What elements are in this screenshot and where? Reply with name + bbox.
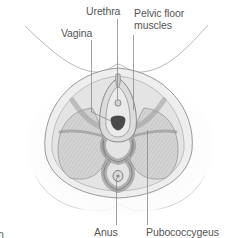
label-pelvic-floor-line1: Pelvic floor <box>134 8 184 20</box>
label-pubococcygeus: Pubococcygeus <box>146 227 219 238</box>
label-pelvic-floor-muscles: Pelvic floor muscles <box>134 8 184 31</box>
anatomy-illustration <box>0 0 237 238</box>
pelvic-floor-diagram: Urethra Vagina Pelvic floor muscles Anus… <box>0 0 237 238</box>
label-urethra: Urethra <box>86 6 120 18</box>
label-pelvic-floor-line2: muscles <box>134 20 184 32</box>
cropped-caption-fragment: n <box>0 229 4 238</box>
body-outline <box>25 25 208 72</box>
label-anus: Anus <box>94 227 118 238</box>
urethra-opening <box>115 100 121 106</box>
label-vagina: Vagina <box>61 28 92 40</box>
